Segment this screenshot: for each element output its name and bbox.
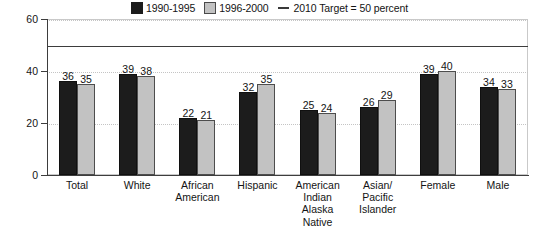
bar: 35 <box>257 84 275 175</box>
bar: 25 <box>300 110 318 175</box>
bar-value-label: 29 <box>381 90 393 101</box>
bar-value-label: 35 <box>261 74 273 85</box>
y-axis-tick-label-60: 60 <box>4 13 38 25</box>
bar-value-label: 25 <box>303 100 315 111</box>
x-axis-category-label: Hispanic <box>227 179 287 191</box>
bar: 26 <box>360 107 378 175</box>
category-label-line: African <box>167 179 227 191</box>
bar: 29 <box>378 100 396 175</box>
x-axis-category-label: White <box>107 179 167 191</box>
bar: 34 <box>480 87 498 175</box>
bar-value-label: 38 <box>140 66 152 77</box>
bar: 24 <box>318 113 336 175</box>
category-label-line: Native <box>288 216 348 228</box>
category-label-line: American <box>288 179 348 191</box>
x-axis-category-label: AmericanIndianAlaskaNative <box>288 179 348 228</box>
bar: 40 <box>438 71 456 175</box>
bar-value-label: 34 <box>483 77 495 88</box>
category-label-line: Pacific <box>348 191 408 203</box>
bar: 32 <box>239 92 257 175</box>
legend-item-target: 2010 Target = 50 percent <box>278 2 408 14</box>
bar-value-label: 39 <box>423 64 435 75</box>
legend-item-1996-2000: 1996-2000 <box>204 2 268 14</box>
legend-label-target: 2010 Target = 50 percent <box>294 2 408 14</box>
bar-group: 3938 <box>119 19 155 175</box>
bar-chart: 1990-1995 1996-2000 2010 Target = 50 per… <box>0 0 539 237</box>
bar: 36 <box>59 81 77 175</box>
bar: 39 <box>119 74 137 175</box>
bar-value-label: 35 <box>80 74 92 85</box>
x-axis-line <box>42 175 529 176</box>
bar-value-label: 32 <box>243 82 255 93</box>
y-axis-labels: 6040200 <box>0 0 41 237</box>
bar: 21 <box>197 120 215 175</box>
category-label-line: Asian/ <box>348 179 408 191</box>
bar: 39 <box>420 74 438 175</box>
bars-layer: 36353938222132352524262939403433 <box>47 19 528 175</box>
bar-value-label: 24 <box>321 103 333 114</box>
x-axis-category-label: Asian/PacificIslander <box>348 179 408 216</box>
bar-value-label: 26 <box>363 97 375 108</box>
bar-value-label: 36 <box>62 71 74 82</box>
bar-value-label: 39 <box>122 64 134 75</box>
category-label-line: Alaska <box>288 203 348 215</box>
x-axis-category-label: Total <box>47 179 107 191</box>
bar-group: 3635 <box>59 19 95 175</box>
y-axis-tick-label-20: 20 <box>4 117 38 129</box>
bar-group: 2221 <box>179 19 215 175</box>
x-axis-category-labels: TotalWhiteAfricanAmericanHispanicAmerica… <box>47 179 528 237</box>
legend-label-1990-1995: 1990-1995 <box>146 2 195 14</box>
bar-group: 3433 <box>480 19 516 175</box>
category-label-line: Indian <box>288 191 348 203</box>
category-label-line: White <box>107 179 167 191</box>
category-label-line: Islander <box>348 203 408 215</box>
bar: 35 <box>77 84 95 175</box>
bar: 38 <box>137 76 155 175</box>
legend-swatch-light-icon <box>204 2 216 14</box>
category-label-line: American <box>167 191 227 203</box>
bar-group: 3940 <box>420 19 456 175</box>
bar-group: 2629 <box>360 19 396 175</box>
category-label-line: Male <box>468 179 528 191</box>
bar-group: 3235 <box>239 19 275 175</box>
bar-group: 2524 <box>300 19 336 175</box>
legend-swatch-dark-icon <box>131 2 143 14</box>
y-axis-tick-label-40: 40 <box>4 65 38 77</box>
bar: 33 <box>498 89 516 175</box>
legend-line-icon <box>278 7 289 9</box>
target-reference-line <box>47 46 528 47</box>
category-label-line: Hispanic <box>227 179 287 191</box>
bar-value-label: 40 <box>441 61 453 72</box>
bar-value-label: 21 <box>200 110 212 121</box>
category-label-line: Total <box>47 179 107 191</box>
category-label-line: Female <box>408 179 468 191</box>
bar: 22 <box>179 118 197 175</box>
chart-legend: 1990-1995 1996-2000 2010 Target = 50 per… <box>0 1 539 15</box>
bar-value-label: 33 <box>501 79 513 90</box>
x-axis-category-label: Female <box>408 179 468 191</box>
legend-label-1996-2000: 1996-2000 <box>219 2 268 14</box>
x-axis-category-label: AfricanAmerican <box>167 179 227 203</box>
y-axis-tick-label-0: 0 <box>4 169 38 181</box>
x-axis-category-label: Male <box>468 179 528 191</box>
bar-value-label: 22 <box>182 108 194 119</box>
legend-item-1990-1995: 1990-1995 <box>131 2 195 14</box>
